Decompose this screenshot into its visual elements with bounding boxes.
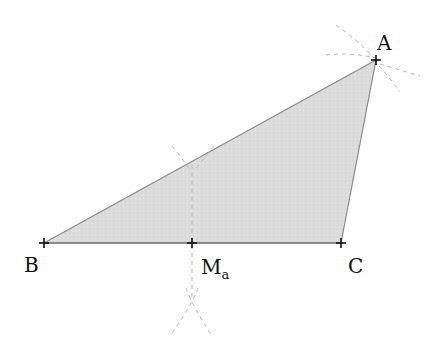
label-a: A <box>376 31 392 55</box>
triangle-abc <box>44 60 376 243</box>
marker-b <box>39 238 49 248</box>
label-ma-sub: a <box>221 267 229 282</box>
label-ma-main: M <box>201 255 221 279</box>
label-b: B <box>24 253 39 277</box>
label-c: C <box>348 254 363 278</box>
geometry-diagram: A B C Ma <box>0 0 429 358</box>
label-ma: Ma <box>201 255 229 282</box>
